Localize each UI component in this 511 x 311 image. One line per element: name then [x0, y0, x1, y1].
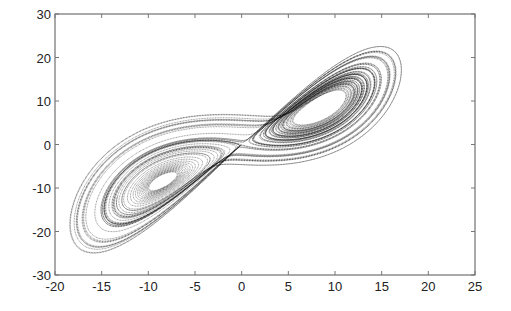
x-tick-label: 10	[328, 279, 342, 294]
y-tick-label: -10	[32, 181, 51, 196]
lorenz-chart: -20-15-10-50510152025 -30-20-100102030	[0, 0, 511, 311]
x-tick-label: -10	[139, 279, 158, 294]
y-tick-label: 0	[44, 138, 51, 153]
y-tick-label: 30	[37, 7, 51, 22]
y-tick-label: -20	[32, 225, 51, 240]
y-tick-label: 10	[37, 94, 51, 109]
x-tick-label: -5	[189, 279, 201, 294]
y-axis-tick-labels: -30-20-100102030	[32, 7, 51, 283]
y-tick-label: 20	[37, 51, 51, 66]
y-tick-label: -30	[32, 268, 51, 283]
x-tick-label: 15	[374, 279, 388, 294]
x-tick-label: -15	[92, 279, 111, 294]
x-tick-label: 25	[468, 279, 482, 294]
x-axis-tick-labels: -20-15-10-50510152025	[46, 279, 483, 294]
x-tick-label: 20	[421, 279, 435, 294]
x-tick-label: 5	[285, 279, 292, 294]
trajectory-series	[70, 47, 402, 254]
x-tick-label: 0	[238, 279, 245, 294]
